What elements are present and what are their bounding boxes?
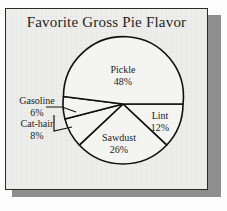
screenshot-root: Favorite Gross Pie Flavor Pickle 48% <box>0 0 227 211</box>
pie-label-pickle-percent: 48% <box>91 76 155 88</box>
pie-label-gasoline-percent: 6% <box>6 107 68 119</box>
pie-label-cat-hair-name: Cat-hair <box>7 118 67 130</box>
pie-label-cat-hair-percent: 8% <box>7 130 67 142</box>
pie-label-gasoline: Gasoline 6% <box>6 95 68 118</box>
pie-label-lint: Lint 12% <box>140 110 180 133</box>
pie-label-sawdust-name: Sawdust <box>88 132 150 144</box>
pie-label-gasoline-name: Gasoline <box>6 95 68 107</box>
pie-label-cat-hair: Cat-hair 8% <box>7 118 67 141</box>
pie-label-pickle-name: Pickle <box>91 64 155 76</box>
pie-label-sawdust: Sawdust 26% <box>88 132 150 155</box>
pie-label-pickle: Pickle 48% <box>91 64 155 87</box>
pie-label-lint-name: Lint <box>140 110 180 122</box>
pie-label-sawdust-percent: 26% <box>88 144 150 156</box>
chart-panel: Favorite Gross Pie Flavor Pickle 48% <box>5 8 208 190</box>
